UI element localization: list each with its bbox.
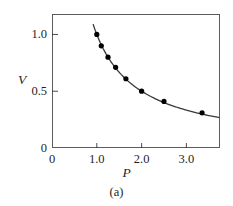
data-curve <box>93 25 218 118</box>
y-tick-label: 0 <box>41 142 47 155</box>
y-axis-title: V <box>18 73 26 87</box>
x-tick-label: 2.0 <box>134 153 150 166</box>
x-tick-label: 3.0 <box>179 153 195 166</box>
data-markers <box>94 32 204 116</box>
x-tick-marks <box>97 143 187 148</box>
figure-caption: (a) <box>0 186 233 199</box>
x-axis-title: P <box>0 166 233 180</box>
plot-area <box>52 14 220 148</box>
x-tick-label: 0 <box>49 153 55 166</box>
y-tick-label: 0.5 <box>31 85 47 98</box>
figure-a: 00.51.0 01.02.03.0 V P (a) <box>0 0 233 206</box>
x-tick-label: 1.0 <box>89 153 105 166</box>
y-tick-label: 1.0 <box>31 28 47 41</box>
y-tick-marks <box>52 34 58 91</box>
